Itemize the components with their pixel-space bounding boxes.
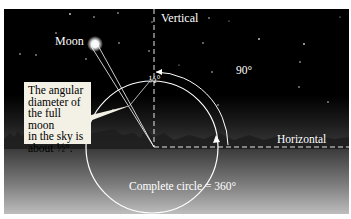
callout-line: in the sky is: [28, 131, 88, 143]
callout-line: about ½°.: [28, 143, 88, 155]
moon-label: Moon: [55, 34, 84, 49]
callout-line: the full moon: [28, 108, 88, 131]
half-degree-label: ½°: [149, 74, 161, 85]
callout-pointer: [87, 105, 132, 122]
callout-line: The angular: [28, 85, 88, 97]
diagram-panel: Moon Vertical Horizontal 90° ½° Complete…: [4, 9, 349, 214]
right-angle-label: 90°: [236, 64, 252, 76]
angular-diameter-callout: The angular diameter of the full moon in…: [24, 82, 91, 144]
complete-circle-label: Complete circle = 360°: [129, 180, 236, 192]
horizontal-label: Horizontal: [277, 133, 326, 145]
vertical-label: Vertical: [161, 11, 198, 26]
